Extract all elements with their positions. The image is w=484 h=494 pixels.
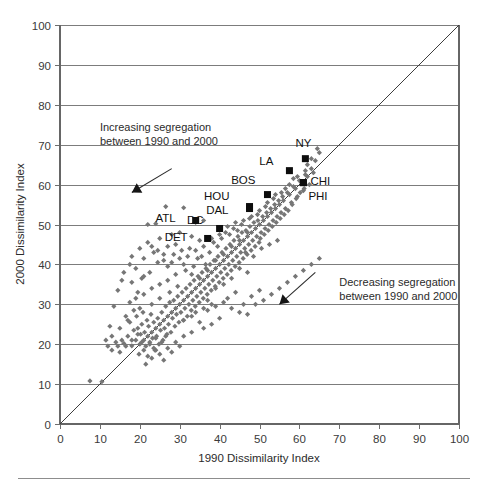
y-tick-label-50: 50: [38, 220, 51, 232]
x-tick-label-10: 10: [94, 433, 107, 445]
y-tick-label-100: 100: [32, 20, 51, 32]
city-label-dal: DAL: [206, 204, 229, 216]
y-tick-label-70: 70: [38, 140, 51, 152]
y-tick-label-60: 60: [38, 180, 51, 192]
y-axis-tick-marks: [55, 26, 60, 425]
city-label-det: DET: [165, 231, 188, 243]
city-label-hou: HOU: [204, 190, 230, 202]
annotation-text-decreasing-line2: between 1990 and 2000: [339, 290, 457, 302]
y-tick-label-20: 20: [38, 339, 51, 351]
figure-container: NYLACHIPHIBOSHOUDALATLDCDET 010203040506…: [0, 0, 484, 494]
x-tick-label-80: 80: [373, 433, 386, 445]
y-tick-label-40: 40: [38, 259, 51, 271]
x-tick-label-100: 100: [450, 433, 469, 445]
city-marker-phi: [300, 179, 307, 186]
city-label-phi: PHI: [308, 190, 327, 202]
x-tick-label-30: 30: [174, 433, 187, 445]
x-tick-label-90: 90: [413, 433, 426, 445]
city-label-dc: DC: [187, 214, 204, 226]
city-label-atl: ATL: [155, 212, 176, 224]
city-label-la: LA: [259, 155, 273, 167]
city-label-ny: NY: [295, 137, 311, 149]
x-tick-label-70: 70: [333, 433, 346, 445]
annotation-text-increasing-line1: Increasing segregation: [100, 121, 211, 133]
x-tick-label-20: 20: [134, 433, 147, 445]
x-axis-tick-marks: [61, 424, 460, 429]
x-axis-title: 1990 Dissimilarity Index: [198, 452, 320, 464]
city-marker-dc: [216, 225, 223, 232]
city-marker-dal: [246, 205, 253, 212]
y-axis-tick-labels: 0102030405060708090100: [32, 20, 51, 431]
x-tick-label-0: 0: [57, 433, 63, 445]
city-marker-la: [286, 167, 293, 174]
scatter-plot: NYLACHIPHIBOSHOUDALATLDCDET 010203040506…: [0, 0, 484, 494]
city-marker-bos: [264, 191, 271, 198]
y-axis-title: 2000 Dissimilarity Index: [14, 163, 26, 285]
annotation-text-increasing-line2: between 1990 and 2000: [100, 135, 218, 147]
x-tick-label-40: 40: [214, 433, 227, 445]
city-marker-ny: [302, 155, 309, 162]
x-axis-tick-labels: 0102030405060708090100: [57, 433, 469, 445]
y-tick-label-90: 90: [38, 60, 51, 72]
y-tick-label-30: 30: [38, 299, 51, 311]
annotation-text-decreasing-line1: Decreasing segregation: [339, 276, 455, 288]
x-tick-label-50: 50: [254, 433, 267, 445]
city-label-bos: BOS: [231, 174, 256, 186]
city-label-chi: CHI: [310, 175, 330, 187]
y-tick-label-0: 0: [45, 419, 51, 431]
footer-divider: [18, 478, 470, 479]
x-tick-label-60: 60: [293, 433, 306, 445]
y-tick-label-10: 10: [38, 379, 51, 391]
city-marker-det: [204, 235, 211, 242]
y-tick-label-80: 80: [38, 100, 51, 112]
